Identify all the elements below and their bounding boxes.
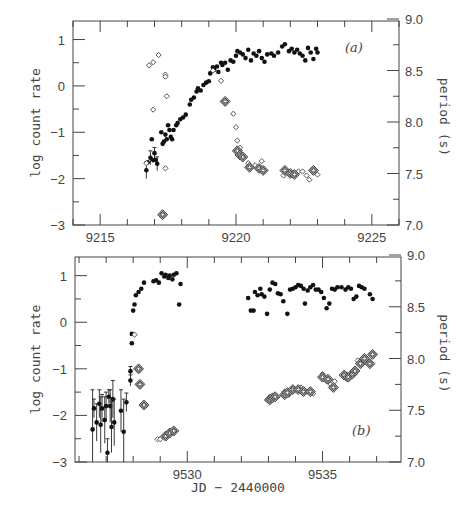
count-rate-point [258,286,263,291]
count-rate-point [192,95,197,100]
count-rate-point [94,420,99,425]
count-rate-point [300,53,305,58]
count-rate-point [362,286,367,291]
y-tick-label: 1 [58,33,65,48]
y2-tick-label: 7.0 [407,455,425,470]
y-tick-label: 1 [60,269,67,284]
count-rate-point [281,299,286,304]
count-rate-point [278,292,283,297]
count-rate-point [167,273,172,278]
count-rate-point [132,302,137,307]
panel-tag: (b) [352,423,370,438]
count-rate-point [249,58,254,63]
panel-a: 92159220922510−1−2−39.08.58.07.57.0log c… [28,12,452,245]
count-rate-point [289,47,294,52]
x-axis-title: JD − 2440000 [191,480,285,495]
light-curve-figure: 92159220922510−1−2−39.08.58.07.57.0log c… [0,0,463,507]
count-rate-point [174,271,179,276]
y2-tick-label: 8.0 [405,115,423,130]
count-rate-point [324,306,329,311]
y-tick-label: −3 [52,455,67,470]
count-rate-point [166,123,171,128]
y-axis-title: log count rate [28,68,43,178]
panel-tag: (a) [345,40,363,55]
count-rate-point [295,47,300,52]
count-rate-point [130,341,135,346]
count-rate-point [262,60,267,65]
count-rate-point [311,57,316,62]
period-point-small [300,169,305,174]
period-point-small [231,111,236,116]
count-rate-point [188,102,193,107]
count-rate-point [276,50,281,55]
count-rate-point [303,58,308,63]
count-rate-point [260,56,265,61]
count-rate-point [265,52,270,57]
count-rate-point [128,378,133,383]
count-rate-point [354,294,359,299]
count-rate-point [272,53,277,58]
period-point-small [218,78,223,83]
count-rate-point [226,67,231,72]
count-rate-point [92,406,97,411]
count-rate-point [183,112,188,117]
count-rate-point [273,282,278,287]
count-rate-point [164,137,169,142]
count-rate-point [121,429,126,434]
count-rate-point [216,70,221,75]
count-rate-point [100,406,105,411]
count-rate-point [152,151,157,156]
count-rate-point [177,302,182,307]
count-rate-point [255,293,260,298]
count-rate-point [215,64,220,69]
count-rate-point [142,280,147,285]
y2-tick-label: 7.0 [405,218,423,233]
y2-axis-title: period (s) [437,314,452,392]
count-rate-point [124,400,129,405]
count-rate-point [322,296,327,301]
panel-b: 9530953510−1−2−39.08.58.07.57.0log count… [28,248,452,482]
count-rate-point [234,53,239,58]
count-rate-point [303,301,308,306]
period-point-small [146,63,151,68]
y-tick-label: −3 [50,218,65,233]
count-rate-point [283,42,288,47]
count-rate-point [262,294,267,299]
count-rate-point [119,408,124,413]
y2-tick-label: 8.5 [407,300,425,315]
count-rate-point [131,308,136,313]
count-rate-point [257,49,262,54]
count-rate-point [368,292,373,297]
count-rate-point [240,52,245,57]
count-rate-point [144,168,149,173]
y-tick-label: −2 [50,172,65,187]
count-rate-point [315,50,320,55]
count-rate-point [170,277,175,282]
count-rate-point [198,88,203,93]
count-rate-point [349,286,354,291]
y2-tick-label: 9.0 [405,12,423,27]
x-tick-label: 9535 [308,467,337,482]
y-tick-label: 0 [58,79,65,94]
count-rate-point [254,53,259,58]
count-rate-point [335,285,340,290]
count-rate-point [251,308,256,313]
count-rate-point [308,50,313,55]
period-point-small [235,138,240,143]
count-rate-point [265,312,270,317]
count-rate-point [175,121,180,126]
count-rate-point [105,450,110,455]
count-rate-point [267,287,272,292]
period-point-small [163,166,168,171]
count-rate-point [149,137,154,142]
y2-tick-label: 9.0 [407,248,425,263]
count-rate-point [98,422,103,427]
count-rate-point [109,425,114,430]
count-rate-point [339,285,344,290]
x-tick-label: 9215 [86,230,115,245]
period-point-small [151,107,156,112]
period-point-small [156,52,161,57]
count-rate-point [370,297,375,302]
y-axis-title: log count rate [28,305,43,415]
x-tick-label: 9225 [357,230,386,245]
